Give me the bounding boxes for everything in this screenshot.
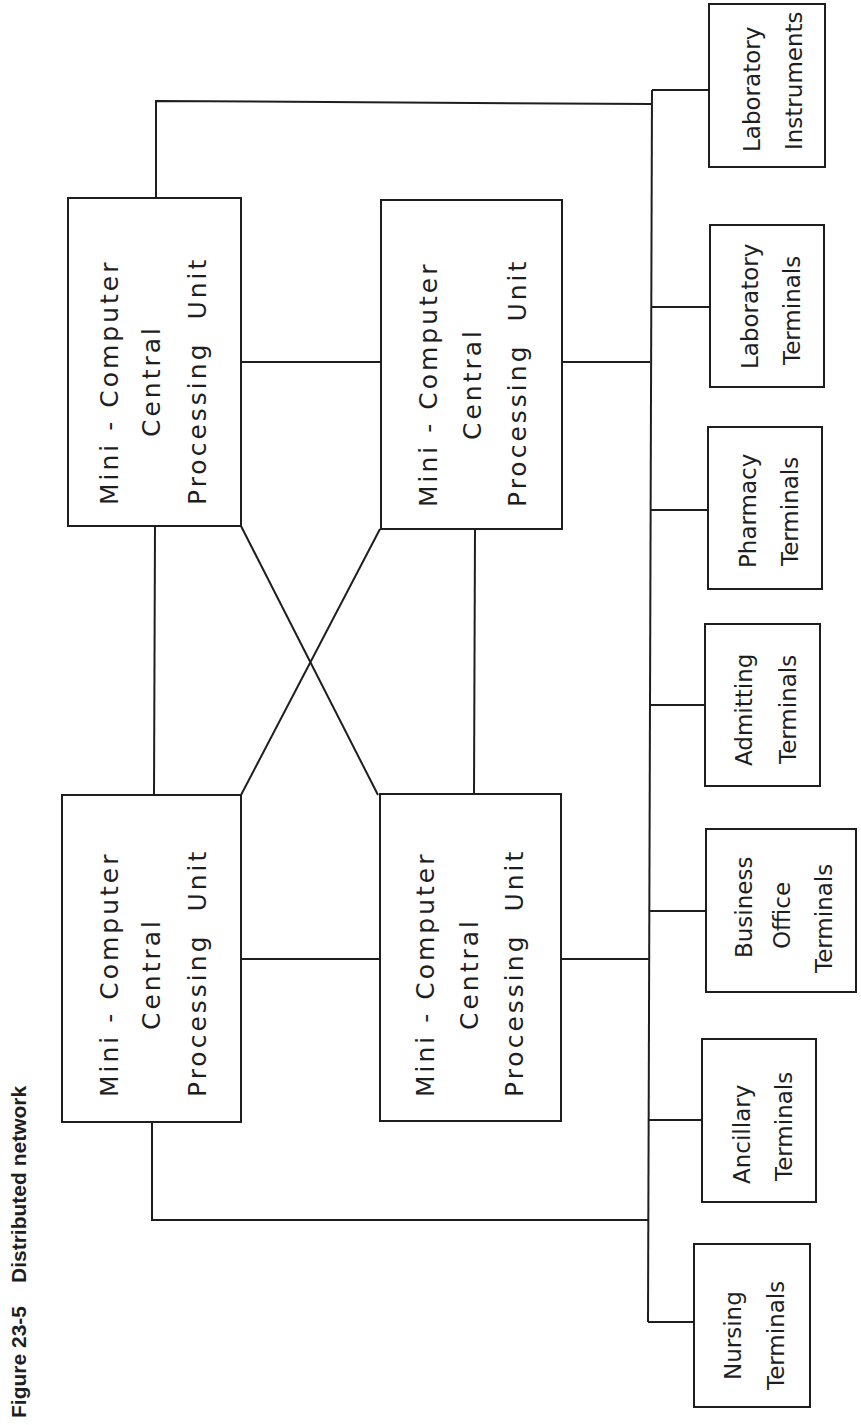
svg-text:Business: Business: [731, 857, 757, 958]
svg-text:Terminals: Terminals: [811, 864, 837, 974]
admitting-terminals-box: Admitting Terminals: [705, 624, 820, 786]
ancillary-terminals-box: Ancillary Terminals: [702, 1039, 816, 1202]
svg-text:Processing Unit: Processing Unit: [183, 849, 212, 1097]
svg-text:Pharmacy: Pharmacy: [735, 454, 761, 568]
svg-text:Laboratory: Laboratory: [739, 27, 765, 152]
svg-text:Processing Unit: Processing Unit: [183, 257, 212, 505]
cpu-bottom-left: Mini - Computer Central Processing Unit: [62, 795, 241, 1122]
business-office-terminals-box: Business Office Terminals: [706, 829, 856, 992]
svg-text:Central: Central: [137, 325, 166, 437]
top-link-line: [156, 101, 652, 198]
link-tl-bl: [154, 526, 155, 795]
svg-text:Terminals: Terminals: [779, 256, 805, 366]
svg-text:Central: Central: [137, 918, 166, 1030]
svg-text:Central: Central: [455, 918, 484, 1030]
svg-text:Terminals: Terminals: [775, 655, 801, 765]
svg-text:Processing Unit: Processing Unit: [503, 259, 532, 507]
bottom-link-line: [152, 1122, 648, 1220]
cpu-top-right: Mini - Computer Central Processing Unit: [381, 200, 562, 529]
svg-text:Processing Unit: Processing Unit: [500, 849, 529, 1097]
svg-text:Ancillary: Ancillary: [729, 1085, 755, 1184]
svg-text:Instruments: Instruments: [781, 11, 807, 150]
cpu-bottom-right: Mini - Computer Central Processing Unit: [380, 794, 561, 1121]
svg-text:Nursing: Nursing: [720, 1291, 746, 1380]
svg-text:Mini - Computer: Mini - Computer: [411, 851, 440, 1097]
svg-text:Admitting: Admitting: [731, 654, 757, 766]
svg-text:Terminals: Terminals: [771, 1072, 797, 1182]
cpu-top-left: Mini - Computer Central Processing Unit: [68, 198, 241, 526]
link-tr-br: [474, 529, 475, 794]
svg-text:Office: Office: [769, 882, 795, 949]
figure-title: Distributed network: [7, 1085, 30, 1283]
nursing-terminals-box: Nursing Terminals: [694, 1244, 810, 1407]
pharmacy-terminals-box: Pharmacy Terminals: [708, 427, 822, 589]
distributed-network-diagram: Figure 23-5 Distributed network: [0, 0, 861, 1425]
svg-text:Laboratory: Laboratory: [737, 244, 763, 369]
svg-text:Mini - Computer: Mini - Computer: [95, 851, 124, 1097]
svg-text:Terminals: Terminals: [777, 457, 803, 567]
laboratory-instruments-box: Laboratory Instruments: [709, 4, 825, 167]
svg-text:Mini - Computer: Mini - Computer: [414, 261, 443, 507]
figure-number: Figure 23-5: [7, 1306, 30, 1418]
svg-text:Mini - Computer: Mini - Computer: [95, 259, 124, 505]
svg-text:Terminals: Terminals: [763, 1281, 789, 1391]
laboratory-terminals-box: Laboratory Terminals: [710, 225, 824, 387]
figure-caption: Figure 23-5 Distributed network: [7, 1085, 30, 1418]
svg-text:Central: Central: [458, 328, 487, 440]
